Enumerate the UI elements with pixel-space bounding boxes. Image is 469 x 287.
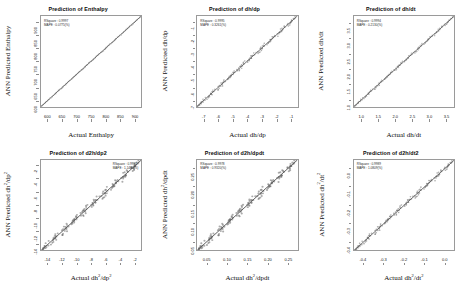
- x-tick-label: 600: [44, 114, 51, 119]
- y-tick-label: -4: [190, 66, 195, 70]
- x-tick-label: -0.2: [400, 257, 407, 262]
- y-tick-mark: [36, 231, 38, 232]
- x-tick-mark: [247, 263, 248, 265]
- y-tick-mark: [193, 168, 195, 169]
- y-tick-mark: [349, 38, 351, 39]
- y-axis-ticks: 0.050.100.150.200.25: [182, 159, 192, 252]
- metrics-annotation: RSquare : 0.9994MAPE : 0.2130(%): [357, 19, 383, 28]
- plot-panel-5: Prediction of d2h/dpdtRSquare : 0.9978MA…: [156, 144, 312, 287]
- figure-grid: Prediction of EnthalpyRSquare : 0.9997MA…: [0, 0, 469, 287]
- x-tick-label: 0.0: [442, 257, 448, 262]
- y-tick-label: 800: [34, 53, 39, 60]
- y-tick-label: -0.4: [346, 247, 351, 254]
- x-tick-mark: [207, 263, 208, 265]
- y-tick-label: 0.15: [190, 210, 195, 218]
- x-tick-label: -6: [104, 257, 108, 262]
- y-tick-mark: [349, 84, 351, 85]
- plot-frame: RSquare : 0.9997MAPE : 0.0775(%): [40, 15, 142, 108]
- y-tick-label: 3.0: [346, 43, 351, 49]
- y-tick-label: 2.0: [346, 74, 351, 80]
- metric-line: MAPE : 0.9320(%): [200, 166, 226, 170]
- x-tick-label: -0.3: [380, 257, 387, 262]
- x-tick-label: -1: [290, 114, 294, 119]
- x-axis-ticks: 0.050.100.150.200.25: [196, 257, 298, 265]
- y-tick-label: -10: [34, 223, 39, 229]
- x-tick-mark: [268, 263, 269, 265]
- y-tick-mark: [36, 178, 38, 179]
- x-axis-label: Actual Enthalpy: [40, 131, 142, 139]
- x-tick-label: -7: [202, 114, 206, 119]
- x-tick-label: 900: [132, 114, 139, 119]
- x-tick-mark: [106, 263, 107, 265]
- y-axis-label: ANN Predicted dh/dp: [158, 15, 170, 108]
- identity-scatter-band: [41, 160, 141, 251]
- y-tick-label: 3.5: [346, 28, 351, 34]
- x-axis-label: Actual dh2/dt2: [353, 273, 455, 282]
- identity-scatter-band: [41, 16, 141, 107]
- x-tick-label: 3.5: [444, 114, 450, 119]
- x-tick-mark: [106, 119, 107, 121]
- plot-panel-6: Prediction of d2h/dt2RSquare : 0.9989MAP…: [313, 144, 469, 287]
- y-axis-ticks: -0.4-0.3-0.2-0.10.0: [339, 159, 349, 252]
- plot-frame: RSquare : 0.9978MAPE : 0.9320(%): [196, 159, 298, 252]
- y-tick-mark: [36, 205, 38, 206]
- x-tick-mark: [288, 263, 289, 265]
- x-tick-label: -3: [260, 114, 264, 119]
- y-tick-mark: [193, 242, 195, 243]
- x-axis-ticks: 600650700750800850900: [40, 114, 142, 122]
- x-tick-label: 0.20: [264, 257, 272, 262]
- metrics-annotation: RSquare : 0.9995MAPE : 0.3261(%): [200, 19, 226, 28]
- x-tick-label: -12: [59, 257, 65, 262]
- y-tick-mark: [349, 205, 351, 206]
- x-axis-ticks: 1.01.52.02.53.03.5: [353, 114, 455, 122]
- y-tick-label: 0.05: [190, 247, 195, 255]
- y-tick-mark: [193, 48, 195, 49]
- y-axis-label: ANN Predicted Enthalpy: [2, 15, 14, 108]
- x-tick-label: 750: [88, 114, 95, 119]
- x-tick-mark: [277, 119, 278, 121]
- y-tick-mark: [349, 223, 351, 224]
- y-axis-label: ANN Predicted dh2/dpdt: [158, 159, 170, 252]
- x-tick-label: 0.05: [203, 257, 211, 262]
- y-tick-label: -8: [34, 210, 39, 214]
- y-axis-label-text: ANN Predicted dh/dp: [160, 31, 168, 92]
- plot-title: Prediction of Enthalpy: [0, 6, 156, 12]
- x-tick-mark: [429, 119, 430, 121]
- metrics-annotation: RSquare : 0.9989MAPE : 1.0809(%): [357, 162, 383, 171]
- x-axis-label: Actual dh2/dpdt: [196, 273, 298, 282]
- y-tick-mark: [349, 100, 351, 101]
- x-tick-label: -5: [231, 114, 235, 119]
- y-tick-mark: [36, 218, 38, 219]
- y-tick-label: -4: [34, 183, 39, 187]
- y-tick-label: -7: [190, 106, 195, 110]
- x-tick-mark: [262, 119, 263, 121]
- x-tick-mark: [77, 263, 78, 265]
- metrics-annotation: RSquare : 0.9997MAPE : 0.0775(%): [44, 19, 70, 28]
- x-tick-mark: [227, 263, 228, 265]
- y-tick-mark: [36, 101, 38, 102]
- y-tick-mark: [193, 101, 195, 102]
- plot-panel-1: Prediction of EnthalpyRSquare : 0.9997MA…: [0, 0, 156, 144]
- y-tick-mark: [193, 205, 195, 206]
- x-tick-mark: [378, 119, 379, 121]
- x-tick-label: 3.0: [427, 114, 433, 119]
- x-tick-mark: [91, 119, 92, 121]
- y-tick-label: 0.20: [190, 191, 195, 199]
- x-tick-label: -2: [275, 114, 279, 119]
- x-tick-mark: [135, 119, 136, 121]
- x-tick-label: 650: [59, 114, 66, 119]
- y-axis-ticks: 1.01.52.02.53.03.5: [339, 15, 349, 108]
- x-tick-mark: [361, 119, 362, 121]
- x-tick-label: -0.1: [421, 257, 428, 262]
- x-tick-mark: [77, 119, 78, 121]
- x-tick-label: -6: [216, 114, 220, 119]
- y-tick-mark: [193, 223, 195, 224]
- y-tick-mark: [193, 35, 195, 36]
- y-tick-mark: [349, 242, 351, 243]
- y-tick-label: -0.3: [346, 228, 351, 235]
- x-tick-label: 2.5: [410, 114, 416, 119]
- y-tick-label: 600: [34, 106, 39, 113]
- plot-title: Prediction of dh/dp: [156, 6, 312, 12]
- x-tick-mark: [47, 263, 48, 265]
- y-tick-label: -3: [190, 53, 195, 57]
